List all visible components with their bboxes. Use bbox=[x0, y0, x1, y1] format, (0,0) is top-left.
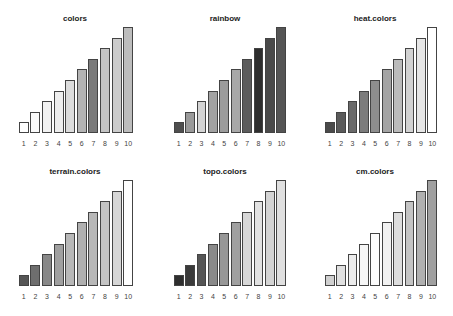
panel-colors: colors 12345678910 bbox=[0, 0, 150, 150]
bar bbox=[30, 265, 40, 286]
bar bbox=[405, 201, 415, 286]
bar bbox=[416, 38, 426, 133]
bar bbox=[42, 254, 52, 286]
x-tick-label: 10 bbox=[425, 140, 439, 147]
bar bbox=[325, 275, 335, 286]
bar bbox=[185, 265, 195, 286]
bar bbox=[65, 233, 75, 286]
bar bbox=[100, 48, 110, 133]
bar-group: 12345678910 bbox=[150, 153, 300, 303]
bar bbox=[77, 222, 87, 286]
bar bbox=[265, 191, 275, 286]
bar bbox=[348, 254, 358, 286]
bar bbox=[185, 112, 195, 133]
bar bbox=[112, 38, 122, 133]
bar bbox=[88, 212, 98, 286]
bar bbox=[65, 80, 75, 133]
bar bbox=[242, 59, 252, 133]
bar-group: 12345678910 bbox=[0, 0, 150, 150]
bar bbox=[54, 244, 64, 286]
bar bbox=[254, 201, 264, 286]
panel-topo-colors: topo.colors 12345678910 bbox=[150, 153, 300, 303]
bar bbox=[123, 27, 133, 133]
bar bbox=[54, 91, 64, 133]
bar bbox=[77, 69, 87, 133]
bar bbox=[219, 233, 229, 286]
bar bbox=[393, 59, 403, 133]
bar bbox=[427, 27, 437, 133]
bar bbox=[325, 122, 335, 133]
bar bbox=[100, 201, 110, 286]
bar bbox=[382, 69, 392, 133]
bar bbox=[197, 101, 207, 133]
bar bbox=[359, 244, 369, 286]
bar bbox=[336, 265, 346, 286]
bar bbox=[370, 80, 380, 133]
panel-rainbow: rainbow 12345678910 bbox=[150, 0, 300, 150]
bar bbox=[88, 59, 98, 133]
bar-group: 12345678910 bbox=[0, 153, 150, 303]
bar-group: 12345678910 bbox=[150, 0, 300, 150]
bar bbox=[348, 101, 358, 133]
bar bbox=[276, 180, 286, 286]
bar bbox=[416, 191, 426, 286]
bar bbox=[370, 233, 380, 286]
bar bbox=[123, 180, 133, 286]
bar bbox=[219, 80, 229, 133]
bar bbox=[265, 38, 275, 133]
panel-heat-colors: heat.colors 12345678910 bbox=[300, 0, 450, 150]
bar-group: 12345678910 bbox=[300, 0, 450, 150]
bar bbox=[112, 191, 122, 286]
x-tick-label: 10 bbox=[121, 293, 135, 300]
bar bbox=[231, 69, 241, 133]
bar bbox=[359, 91, 369, 133]
bar bbox=[276, 27, 286, 133]
bar bbox=[19, 122, 29, 133]
x-tick-label: 10 bbox=[274, 140, 288, 147]
bar bbox=[174, 275, 184, 286]
bar bbox=[174, 122, 184, 133]
bar bbox=[427, 180, 437, 286]
bar bbox=[254, 48, 264, 133]
bar bbox=[382, 222, 392, 286]
x-tick-label: 10 bbox=[121, 140, 135, 147]
bar-group: 12345678910 bbox=[300, 153, 450, 303]
panel-terrain-colors: terrain.colors 12345678910 bbox=[0, 153, 150, 303]
bar bbox=[336, 112, 346, 133]
bar bbox=[405, 48, 415, 133]
bar bbox=[208, 91, 218, 133]
bar bbox=[19, 275, 29, 286]
panel-cm-colors: cm.colors 12345678910 bbox=[300, 153, 450, 303]
bar bbox=[208, 244, 218, 286]
x-tick-label: 10 bbox=[425, 293, 439, 300]
bar bbox=[393, 212, 403, 286]
bar bbox=[242, 212, 252, 286]
x-tick-label: 10 bbox=[274, 293, 288, 300]
bar bbox=[197, 254, 207, 286]
bar bbox=[42, 101, 52, 133]
bar bbox=[231, 222, 241, 286]
bar bbox=[30, 112, 40, 133]
